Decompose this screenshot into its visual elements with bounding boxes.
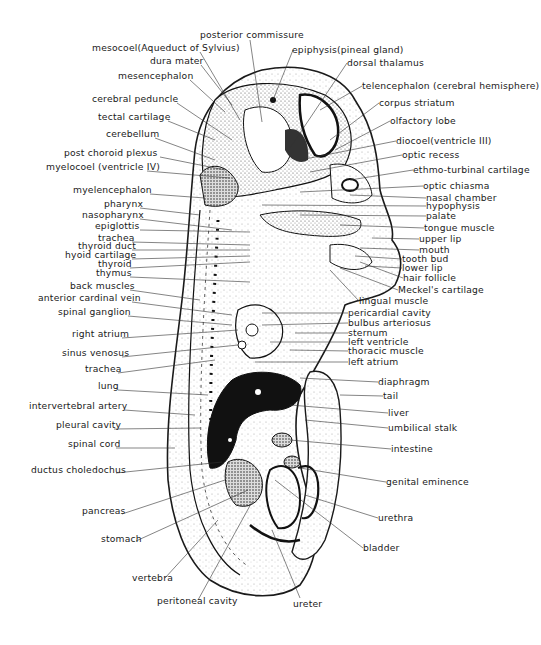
label-vertebra: vertebra <box>132 573 173 583</box>
label-pharynx: pharynx <box>104 199 143 209</box>
label-lung: lung <box>98 381 119 391</box>
label-pancreas: pancreas <box>82 506 126 516</box>
label-sinus-venosus: sinus venosus <box>62 348 129 358</box>
label-intervertebral-artery: intervertebral artery <box>29 401 127 411</box>
label-tail: tail <box>383 391 398 401</box>
anatomy-drawing <box>0 0 541 645</box>
label-telencephalon: telencephalon (cerebral hemisphere) <box>362 81 539 91</box>
label-diocoel: diocoel(ventricle III) <box>396 136 492 146</box>
label-post-choroid-plexus: post choroid plexus <box>64 148 157 158</box>
embryo-section-diagram: mesocoel(Aqueduct of Sylvius) dura mater… <box>0 0 541 645</box>
label-nasopharynx: nasopharynx <box>82 210 144 220</box>
label-back-muscles: back muscles <box>70 281 135 291</box>
label-thymus: thymus <box>96 268 132 278</box>
label-mesencephalon: mesencephalon <box>118 71 193 81</box>
label-dorsal-thalamus: dorsal thalamus <box>347 58 424 68</box>
label-ethmo-turbinal-cartilage: ethmo-turbinal cartilage <box>413 165 530 175</box>
label-mesocoel: mesocoel(Aqueduct of Sylvius) <box>92 43 240 53</box>
label-ureter: ureter <box>293 599 322 609</box>
label-diaphragm: diaphragm <box>378 377 430 387</box>
label-right-atrium: right atrium <box>72 329 129 339</box>
label-tongue-muscle: tongue muscle <box>424 223 495 233</box>
label-palate: palate <box>426 211 456 221</box>
label-anterior-cardinal-vein: anterior cardinal vein <box>38 293 141 303</box>
label-optic-chiasma: optic chiasma <box>423 181 490 191</box>
label-ductus-choledochus: ductus choledochus <box>31 465 126 475</box>
label-olfactory-lobe: olfactory lobe <box>390 116 456 126</box>
label-lingual-muscle: lingual muscle <box>359 296 428 306</box>
label-umbilical-stalk: umbilical stalk <box>388 423 457 433</box>
label-myelencephalon: myelencephalon <box>73 185 152 195</box>
label-trachea-lower: trachea <box>85 364 122 374</box>
label-epiglottis: epiglottis <box>95 221 140 231</box>
label-bladder: bladder <box>363 543 400 553</box>
label-intestine: intestine <box>391 444 433 454</box>
label-dura-mater: dura mater <box>150 56 204 66</box>
label-cerebellum: cerebellum <box>106 129 159 139</box>
label-meckels-cartilage: Meckel's cartilage <box>398 285 484 295</box>
label-left-atrium: left atrium <box>348 357 398 367</box>
label-pleural-cavity: pleural cavity <box>56 420 121 430</box>
label-upper-lip: upper lip <box>419 234 462 244</box>
label-spinal-ganglion: spinal ganglion <box>58 307 131 317</box>
label-myelocoel: myelocoel (ventricle IV) <box>46 162 160 172</box>
label-peritoneal-cavity: peritoneal cavity <box>157 596 238 606</box>
label-hair-follicle: hair follicle <box>403 273 456 283</box>
label-posterior-commissure: posterior commissure <box>200 30 304 40</box>
label-optic-recess: optic recess <box>402 150 459 160</box>
label-spinal-cord: spinal cord <box>68 439 120 449</box>
label-liver: liver <box>388 408 409 418</box>
label-tectal-cartilage: tectal cartilage <box>98 112 171 122</box>
label-stomach: stomach <box>101 534 142 544</box>
label-cerebral-peduncle: cerebral peduncle <box>92 94 178 104</box>
label-epiphysis: epiphysis(pineal gland) <box>292 45 404 55</box>
label-corpus-striatum: corpus striatum <box>379 98 455 108</box>
label-urethra: urethra <box>378 513 413 523</box>
label-genital-eminence: genital eminence <box>386 477 469 487</box>
label-thoracic-muscle: thoracic muscle <box>348 346 424 356</box>
